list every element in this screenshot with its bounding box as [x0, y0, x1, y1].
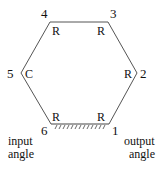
hatch-mark	[103, 125, 105, 129]
output-caption-line2: angle	[129, 147, 155, 161]
output-caption-line1: output	[124, 134, 155, 148]
hatch-mark	[95, 125, 97, 129]
linkage-outline	[21, 22, 137, 124]
vertex-label-4: 4	[41, 6, 48, 21]
joint-type-6: R	[52, 110, 60, 124]
vertex-label-6: 6	[41, 123, 48, 138]
hatch-mark	[59, 125, 61, 129]
linkage-diagram: 4 3 2 5 6 1 R R R C R R input angle outp…	[0, 0, 166, 170]
hatch-mark	[79, 125, 81, 129]
input-caption-line1: input	[8, 134, 33, 148]
ground-hatching	[55, 125, 105, 129]
vertex-label-2: 2	[140, 66, 147, 81]
vertex-label-1: 1	[112, 123, 119, 138]
joint-type-1: R	[97, 110, 105, 124]
hatch-mark	[75, 125, 77, 129]
joint-type-2: R	[124, 67, 132, 81]
hatch-mark	[83, 125, 85, 129]
joint-type-3: R	[97, 24, 105, 38]
hatch-mark	[87, 125, 89, 129]
joint-type-4: R	[52, 24, 60, 38]
hatch-mark	[67, 125, 69, 129]
joint-type-5: C	[25, 67, 33, 81]
vertex-label-5: 5	[7, 66, 14, 81]
hatch-mark	[55, 125, 57, 129]
hatch-mark	[71, 125, 73, 129]
hatch-mark	[63, 125, 65, 129]
hatch-mark	[91, 125, 93, 129]
input-caption-line2: angle	[8, 147, 34, 161]
hatch-mark	[99, 125, 101, 129]
vertex-label-3: 3	[110, 6, 117, 21]
